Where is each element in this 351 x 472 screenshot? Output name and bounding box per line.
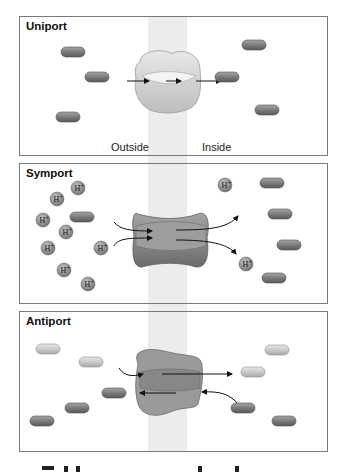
- caption-fragment: [235, 466, 239, 472]
- solute-molecule-dark: [102, 388, 126, 398]
- proton-icon: H+: [59, 225, 73, 239]
- solute-molecule-dark: [262, 273, 286, 283]
- caption-fragment: [76, 466, 80, 472]
- svg-text:H: H: [85, 280, 91, 289]
- proton-icon: H+: [36, 213, 50, 227]
- uniport-transporter: [135, 51, 201, 113]
- proton-icon: H+: [57, 263, 71, 277]
- svg-text:+: +: [249, 258, 252, 264]
- svg-text:+: +: [69, 226, 72, 232]
- svg-text:H: H: [75, 184, 81, 193]
- solute-molecule-light: [79, 357, 103, 367]
- solute-molecule-dark: [65, 403, 89, 413]
- svg-text:H: H: [40, 216, 46, 225]
- svg-text:+: +: [228, 179, 231, 185]
- proton-icon: H+: [239, 257, 253, 271]
- svg-text:H: H: [98, 244, 104, 253]
- solute-molecule-dark: [277, 240, 301, 250]
- caption-fragment: [42, 466, 54, 470]
- svg-text:+: +: [91, 278, 94, 284]
- proton-icon: H+: [218, 178, 232, 192]
- svg-text:+: +: [51, 242, 54, 248]
- proton-icon: H+: [81, 277, 95, 291]
- solute-molecule-light: [265, 345, 289, 355]
- solute-molecule-dark: [268, 209, 292, 219]
- proton-icon: H+: [94, 241, 108, 255]
- caption-fragment: [198, 466, 202, 472]
- svg-text:+: +: [46, 214, 49, 220]
- antiport-transporter: [136, 349, 203, 415]
- proton-icon: H+: [71, 181, 85, 195]
- solute-molecule-dark: [30, 416, 54, 426]
- svg-text:H: H: [63, 228, 69, 237]
- caption-fragment: [64, 466, 68, 472]
- solute-molecule-dark: [61, 47, 85, 57]
- solute-molecule-dark: [231, 403, 255, 413]
- solute-molecule-light: [36, 344, 60, 354]
- solute-molecule-dark: [260, 178, 284, 188]
- svg-text:H: H: [243, 260, 249, 269]
- svg-text:+: +: [60, 193, 63, 199]
- svg-text:H: H: [54, 195, 60, 204]
- solute-molecule-dark: [70, 212, 94, 222]
- svg-text:+: +: [104, 242, 107, 248]
- svg-text:H: H: [222, 181, 228, 190]
- solute-molecule-dark: [255, 105, 279, 115]
- proton-icon: H+: [50, 192, 64, 206]
- solute-molecule-dark: [272, 416, 296, 426]
- svg-text:+: +: [81, 182, 84, 188]
- solute-molecule-light: [241, 367, 265, 377]
- diagram-graphics: H+H+H+H+H+H+H+H+H+H+: [0, 0, 351, 472]
- solute-molecule-dark: [85, 72, 109, 82]
- proton-icon: H+: [41, 241, 55, 255]
- solute-molecule-dark: [242, 40, 266, 50]
- svg-text:+: +: [67, 264, 70, 270]
- svg-text:H: H: [61, 266, 67, 275]
- solute-molecule-dark: [215, 72, 239, 82]
- svg-text:H: H: [45, 244, 51, 253]
- solute-molecule-dark: [56, 112, 80, 122]
